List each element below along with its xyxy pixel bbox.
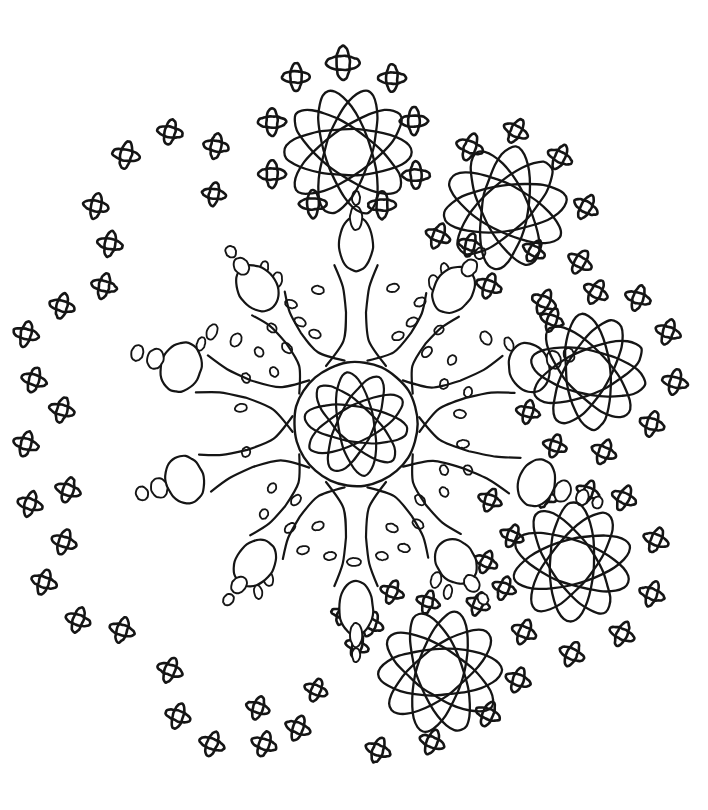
hub-core-layer — [294, 362, 417, 486]
speckle-dash — [444, 585, 452, 599]
ray-tip-dot — [554, 480, 571, 501]
artboard-wrapper: Atomic Rosette Mandala Hand-drawn black … — [0, 0, 708, 810]
line-art-canvas: Atomic Rosette Mandala Hand-drawn black … — [0, 0, 708, 810]
ray-tip-dot — [350, 623, 362, 647]
speckle-dash — [309, 330, 321, 339]
speckle-dash — [440, 487, 449, 497]
ray-tip-dot — [478, 593, 489, 604]
speckle-dash — [324, 552, 336, 560]
ray-tip-dot — [352, 648, 360, 662]
speckle-dash — [268, 483, 276, 493]
speckle-dash — [347, 558, 361, 566]
speckle-dash — [255, 347, 264, 357]
speckle-dash — [386, 524, 398, 533]
speckle-dash — [398, 544, 410, 552]
speckle-dash — [312, 522, 324, 531]
ray-tip-dot — [147, 349, 164, 369]
speckle-dash — [254, 585, 262, 599]
ray-tip-dot — [464, 575, 480, 592]
ray-tip-dot — [136, 486, 148, 500]
speckle-dash — [454, 410, 466, 418]
ray-tip-dot — [223, 594, 234, 605]
speckle-dash — [392, 332, 404, 341]
ray-tip-dot — [151, 478, 168, 497]
ray-tip-dot — [592, 497, 602, 509]
speckle-dash — [376, 552, 388, 560]
ray-tip-dot — [234, 258, 250, 275]
speckle-dash — [231, 333, 242, 346]
speckle-dash — [387, 284, 399, 292]
speckle-dash — [270, 367, 279, 377]
ray-tip-dot — [225, 246, 236, 257]
speckle-dash — [297, 546, 309, 554]
ray-tip-dot — [131, 345, 143, 361]
speckle-dash — [260, 509, 268, 519]
speckle-dash — [312, 286, 324, 294]
speckle-dash — [440, 465, 449, 475]
hub-core-circle — [294, 362, 417, 486]
speckle-dash — [448, 355, 457, 365]
speckle-dash — [235, 404, 247, 412]
